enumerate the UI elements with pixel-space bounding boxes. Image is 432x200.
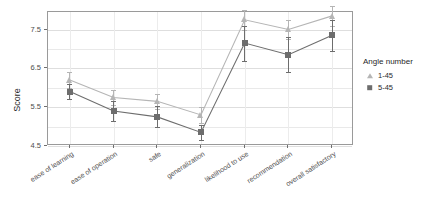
y-axis-tick-mark: [44, 145, 47, 146]
data-point-triangle: [241, 16, 247, 22]
x-axis-tick-mark: [287, 145, 288, 148]
legend-item-label: 1-45: [378, 71, 393, 80]
y-axis-tick-label: 6.5: [31, 63, 41, 72]
error-bar-cap: [242, 61, 247, 62]
data-point-square: [111, 108, 117, 114]
error-bar-cap: [67, 84, 72, 85]
data-point-triangle: [154, 98, 160, 104]
square-marker-icon: [363, 82, 376, 93]
x-axis-tick-mark: [69, 145, 70, 148]
y-axis-tick-label: 7.5: [31, 24, 41, 33]
error-bar-cap: [286, 20, 291, 21]
data-point-triangle: [197, 112, 203, 118]
error-bar-cap: [111, 90, 116, 91]
legend-item-label: 5-45: [378, 83, 393, 92]
data-point-square: [242, 40, 248, 46]
legend-item-5-45[interactable]: 5-45: [363, 82, 429, 93]
data-point-triangle: [329, 13, 335, 19]
error-bar-cap: [286, 37, 291, 38]
x-axis-tick-mark: [113, 145, 114, 148]
error-bar-cap: [67, 99, 72, 100]
legend-item-1-45[interactable]: 1-45: [363, 70, 429, 81]
x-axis-tick-mark: [244, 145, 245, 148]
error-bar-cap: [199, 107, 204, 108]
plot-panel: [47, 11, 353, 145]
x-axis-tick-mark: [156, 145, 157, 148]
data-point-triangle: [285, 26, 291, 32]
triangle-marker-icon: [363, 70, 376, 81]
error-bar-cap: [330, 20, 335, 21]
error-bar-cap: [155, 127, 160, 128]
data-point-triangle: [110, 94, 116, 100]
error-bar-cap: [330, 6, 335, 7]
x-axis-tick-mark: [331, 145, 332, 148]
y-axis-tick-label: 4.5: [31, 141, 41, 150]
data-point-square: [154, 114, 160, 120]
series-line-1-45: [70, 16, 332, 115]
error-bar-cap: [155, 106, 160, 107]
error-bar-cap: [199, 123, 204, 124]
data-point-triangle: [66, 77, 72, 83]
error-bar-cap: [242, 26, 247, 27]
error-bar-cap: [67, 72, 72, 73]
y-axis-tick-label: 5.5: [31, 102, 41, 111]
error-bar-cap: [242, 10, 247, 11]
data-point-square: [329, 32, 335, 38]
legend: Angle number 1-45 5-45: [363, 57, 429, 94]
data-point-square: [67, 89, 73, 95]
y-axis-label: Score: [12, 88, 22, 112]
data-point-square: [198, 129, 204, 135]
error-bar-cap: [199, 125, 204, 126]
error-bar-cap: [111, 121, 116, 122]
error-bar-cap: [199, 140, 204, 141]
legend-title: Angle number: [363, 57, 429, 66]
error-bar-cap: [155, 94, 160, 95]
error-bar-cap: [286, 72, 291, 73]
chart-figure: Score 4.55.56.57.5 ease of learningease …: [0, 0, 432, 200]
x-axis-tick-mark: [200, 145, 201, 148]
error-bar-cap: [330, 51, 335, 52]
data-layer: [48, 12, 354, 146]
error-bar-cap: [111, 101, 116, 102]
data-point-square: [285, 52, 291, 58]
